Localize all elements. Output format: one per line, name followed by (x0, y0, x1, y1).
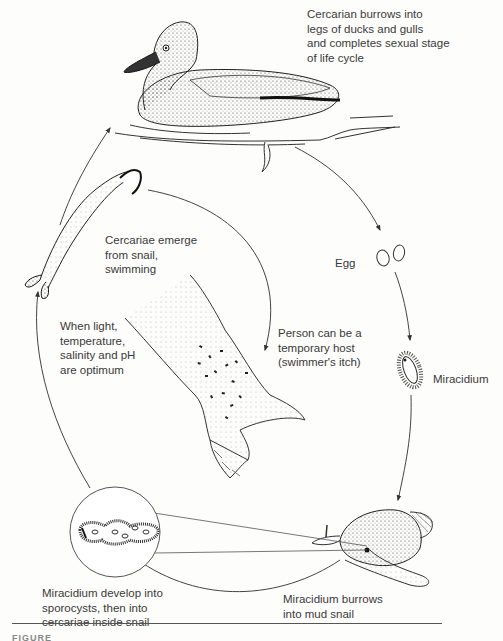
label-person-host: Person can be a temporary host (swimmer'… (278, 326, 362, 370)
label-egg: Egg (335, 256, 355, 271)
zoom-line-bottom (154, 550, 367, 553)
egg-illustration (375, 244, 406, 267)
arrow-snail-to-sporocyst (135, 558, 340, 592)
arrow-duck-to-egg (295, 147, 380, 230)
life-cycle-diagram: Cercarian burrows into legs of ducks and… (0, 0, 503, 641)
label-duck-stage: Cercarian burrows into legs of ducks and… (307, 7, 450, 65)
miracidium-illustration (394, 350, 425, 391)
label-miracidium: Miracidium (433, 372, 489, 387)
zoom-line-top (154, 513, 367, 546)
caption-divider (12, 623, 442, 624)
label-conditions: When light, temperature, salinity and pH… (60, 319, 135, 377)
arrow-egg-to-miracidium (395, 272, 410, 340)
sporocyst-illustration (70, 487, 160, 577)
hand-illustration (125, 275, 305, 478)
label-snail-stage: Miracidium burrows into mud snail (283, 592, 383, 621)
snail-illustration (312, 510, 433, 587)
label-cercariae-stage: Cercariae emerge from snail, swimming (105, 233, 197, 277)
figure-caption: FIGURE (12, 633, 52, 641)
arrow-miracidium-to-snail (398, 395, 411, 500)
